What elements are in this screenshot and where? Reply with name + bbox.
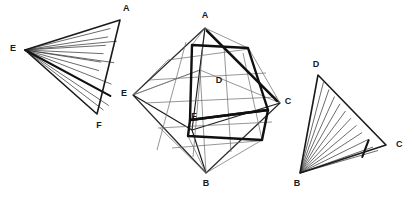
vertex-label-D-right: D <box>313 59 320 69</box>
vertex-label-D-center: D <box>216 75 223 85</box>
vertex-label-C-right: C <box>396 139 403 149</box>
geometry-figure: A E F <box>0 0 415 200</box>
figure-canvas: A E F <box>0 0 415 200</box>
vertex-label-E-center: E <box>121 88 127 98</box>
left-triangle-hatching <box>25 29 117 111</box>
octahedron-edge-A-C-emphasis <box>207 31 277 101</box>
center-octahedron: A E C B D F <box>121 10 292 188</box>
octahedron-apex-fan <box>160 28 262 173</box>
vertex-label-B-right: B <box>294 178 301 188</box>
vertex-label-B-center: B <box>203 178 210 188</box>
vertex-label-C-center: C <box>285 96 292 106</box>
vertex-label-A-left: A <box>123 3 130 13</box>
vertex-label-F-center: F <box>191 111 197 121</box>
vertex-label-F-left: F <box>96 120 102 130</box>
left-hatched-triangle: A E F <box>10 3 130 130</box>
vertex-label-A-center: A <box>202 10 209 20</box>
left-triangle-outline <box>25 20 120 114</box>
vertex-label-E-left: E <box>10 43 16 53</box>
right-hatched-triangle: D B C <box>294 59 403 188</box>
